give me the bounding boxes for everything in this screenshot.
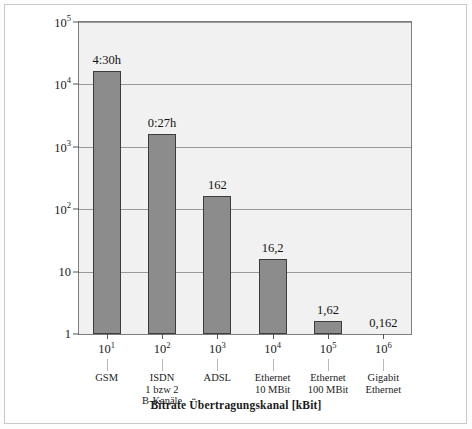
x-tick-mark (162, 334, 163, 339)
x-tick-label: 106 (375, 340, 392, 357)
y-tick-label: 1 (33, 327, 79, 342)
bar (259, 259, 287, 334)
x-tick-label: 101 (98, 340, 115, 357)
y-tick-label: 10 (33, 264, 79, 279)
category-leader-line (107, 359, 108, 371)
y-tick-label: 102 (33, 201, 79, 218)
bar-value-label: 16,2 (262, 241, 284, 256)
x-tick-mark (328, 334, 329, 339)
bar-value-label: 1,62 (317, 303, 339, 318)
y-tick-label: 103 (33, 138, 79, 155)
category-label: GSM (95, 372, 118, 384)
gridline (79, 272, 411, 273)
category-label: Ethernet100 MBit (308, 372, 349, 395)
bar (148, 134, 176, 334)
gridline (79, 209, 411, 210)
category-label: GigabitEthernet (366, 372, 402, 395)
bar-value-label: 0:27h (148, 116, 176, 131)
category-leader-line (273, 359, 274, 371)
gridline (79, 84, 411, 85)
bar-value-label: 0,162 (369, 316, 397, 331)
gridline (79, 22, 411, 23)
category-leader-line (328, 359, 329, 371)
category-label: ADSL (204, 372, 231, 384)
x-tick-label: 102 (154, 340, 171, 357)
x-axis-title: Bitrate Übertragungskanal [kBit] (0, 399, 472, 411)
bar-value-label: 162 (208, 178, 227, 193)
category-label: Ethernet10 MBit (255, 372, 291, 395)
y-tick-label: 104 (33, 76, 79, 93)
plot-area: 105104103102101101GSM102ISDN1 bzw 2B-Kan… (78, 21, 412, 335)
bar (203, 196, 231, 334)
category-leader-line (217, 359, 218, 371)
bar-value-label: 4:30h (92, 53, 120, 68)
x-tick-mark (107, 334, 108, 339)
bar (314, 321, 342, 334)
category-leader-line (162, 359, 163, 371)
x-tick-label: 104 (264, 340, 281, 357)
category-leader-line (383, 359, 384, 371)
chart-figure: Übertragungszeit [s] 105104103102101101G… (0, 0, 472, 429)
x-tick-mark (273, 334, 274, 339)
x-tick-mark (383, 334, 384, 339)
bar (93, 71, 121, 334)
y-tick-label: 105 (33, 13, 79, 30)
x-tick-label: 105 (320, 340, 337, 357)
x-tick-mark (217, 334, 218, 339)
gridline (79, 147, 411, 148)
x-tick-label: 103 (209, 340, 226, 357)
